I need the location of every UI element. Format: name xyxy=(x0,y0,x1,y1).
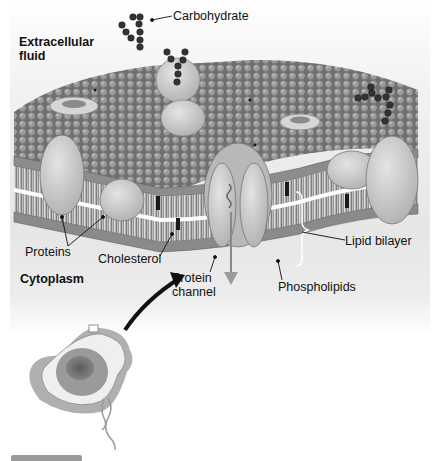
surface-protein xyxy=(161,100,205,136)
cell-illustration xyxy=(29,325,132,450)
label-carbohydrate: Carbohydrate xyxy=(173,10,249,24)
peripheral-protein xyxy=(100,179,144,221)
protein-channel xyxy=(204,143,272,285)
label-protein-channel-2: channel xyxy=(172,286,216,300)
integral-protein xyxy=(40,135,84,215)
label-proteins: Proteins xyxy=(25,246,71,260)
label-cytoplasm: Cytoplasm xyxy=(20,273,84,287)
label-lipid-bilayer: Lipid bilayer xyxy=(345,235,412,249)
caption-bar xyxy=(11,455,82,461)
label-phospholipids: Phospholipids xyxy=(278,281,356,295)
label-extracellular-2: fluid xyxy=(19,50,45,64)
label-cholesterol: Cholesterol xyxy=(98,253,161,267)
label-extracellular-1: Extracellular xyxy=(19,36,94,50)
integral-protein xyxy=(366,136,418,224)
label-protein-channel-1: Protein xyxy=(172,272,212,286)
